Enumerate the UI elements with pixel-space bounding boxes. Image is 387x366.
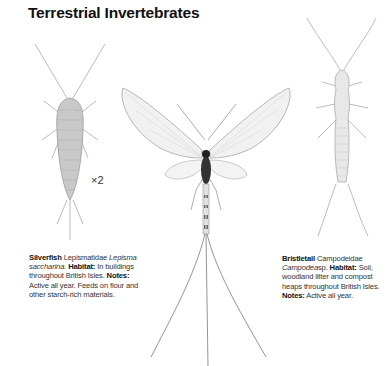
family-name: Lepismatidae (64, 253, 107, 262)
family-name: Campodeidae (317, 254, 363, 263)
latin-suffix: sp. (318, 263, 328, 272)
notes-text: Active all year. Feeds on flour and othe… (29, 281, 138, 299)
habitat-label: Habitat: (330, 263, 357, 272)
bristletail-caption: Bristletail Campodeidae Campodeasp. Habi… (282, 254, 387, 300)
common-name: Silverfish (29, 253, 62, 262)
silverfish-scale-label: ×2 (91, 174, 104, 186)
mayfly-illustration (122, 88, 290, 366)
bristletail-illustration (307, 18, 376, 236)
illustration-plate (0, 0, 387, 366)
common-name: Bristletail (282, 254, 315, 263)
latin-name: Campodea (282, 263, 318, 272)
notes-label: Notes: (282, 291, 305, 300)
habitat-label: Habitat: (68, 262, 95, 271)
silverfish-caption: Silverfish Lepismatidae Lepisma sacchari… (29, 253, 141, 299)
silverfish-illustration (35, 44, 105, 240)
notes-label: Notes: (107, 271, 130, 280)
notes-text: Active all year. (306, 291, 353, 300)
